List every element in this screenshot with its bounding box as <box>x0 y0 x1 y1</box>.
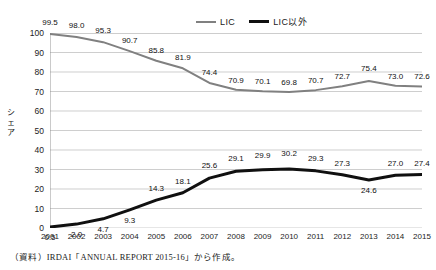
series-line-1 <box>50 169 422 227</box>
y-axis-tick: 60 <box>18 106 44 116</box>
cutoff-header-strip <box>232 0 422 7</box>
y-axis-tick: 30 <box>18 165 44 175</box>
data-label: 70.9 <box>223 76 249 85</box>
y-axis-title-char-3: ア <box>4 128 18 138</box>
y-axis-tick: 80 <box>18 67 44 77</box>
plot-area <box>50 33 422 228</box>
y-axis-tick: 10 <box>18 204 44 214</box>
legend-line-icon-lic <box>196 21 216 23</box>
data-label: 27.4 <box>409 159 435 168</box>
data-label: 24.6 <box>356 186 382 195</box>
y-axis-title-char-1: シ <box>4 108 18 118</box>
data-label: 99.5 <box>37 18 63 27</box>
data-label: 81.9 <box>170 53 196 62</box>
data-label: 2.0 <box>64 230 90 239</box>
legend-item-lic: LIC <box>196 17 235 27</box>
legend-label-other: LIC以外 <box>273 15 307 28</box>
data-label: 95.3 <box>90 26 116 35</box>
legend-line-icon-other <box>249 20 269 23</box>
data-label: 69.8 <box>276 78 302 87</box>
data-label: 73.0 <box>382 72 408 81</box>
plot-svg <box>50 33 422 228</box>
data-label: 70.7 <box>303 76 329 85</box>
data-label: 72.7 <box>329 72 355 81</box>
data-label: 85.8 <box>143 46 169 55</box>
data-label: 27.3 <box>329 159 355 168</box>
legend-item-other: LIC以外 <box>249 15 307 28</box>
data-label: 75.4 <box>356 64 382 73</box>
y-axis-title: シ ェ ア <box>4 108 18 138</box>
data-label: 90.7 <box>117 36 143 45</box>
data-label: 14.3 <box>143 184 169 193</box>
data-label: 25.6 <box>196 161 222 170</box>
data-label: 27.0 <box>382 159 408 168</box>
data-label: 4.7 <box>90 225 116 234</box>
source-note: （資料）IRDAI「ANNUAL REPORT 2015-16」から作成。 <box>10 250 240 262</box>
data-label: 29.3 <box>303 154 329 163</box>
data-label: 29.9 <box>250 151 276 160</box>
y-axis-tick: 70 <box>18 87 44 97</box>
data-label: 29.1 <box>223 154 249 163</box>
chart-legend: LIC LIC以外 <box>196 15 307 28</box>
data-label: 74.4 <box>196 68 222 77</box>
y-axis-tick: 50 <box>18 126 44 136</box>
data-label: 70.1 <box>250 77 276 86</box>
data-label: 0.5 <box>37 233 63 242</box>
x-axis-tick: 2015 <box>406 232 436 241</box>
y-axis-tick: 20 <box>18 184 44 194</box>
y-axis-title-char-2: ェ <box>4 118 18 128</box>
legend-label-lic: LIC <box>220 17 235 27</box>
data-label: 9.3 <box>117 216 143 225</box>
y-axis-tick: 90 <box>18 48 44 58</box>
data-label: 18.1 <box>170 177 196 186</box>
data-label: 98.0 <box>64 21 90 30</box>
y-axis-tick: 100 <box>18 28 44 38</box>
data-label: 30.2 <box>276 149 302 158</box>
data-label: 72.6 <box>409 72 435 81</box>
y-axis-tick: 40 <box>18 145 44 155</box>
